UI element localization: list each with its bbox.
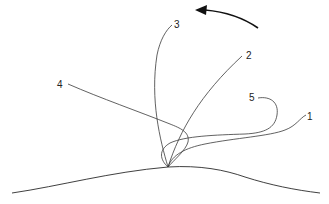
curve-4 (68, 84, 188, 167)
label-3: 3 (174, 19, 180, 30)
curve-5 (162, 98, 278, 167)
curve-3 (155, 25, 172, 167)
trajectory-diagram: 3 2 4 5 1 (0, 0, 329, 204)
curve-2 (168, 56, 242, 167)
label-2: 2 (246, 50, 252, 61)
ground-line (12, 167, 320, 193)
curved-arrow-left-icon (205, 10, 258, 28)
label-5: 5 (249, 92, 255, 103)
label-1: 1 (307, 111, 313, 122)
curve-1 (168, 115, 306, 167)
arrowhead-icon (195, 5, 207, 15)
label-4: 4 (57, 79, 63, 90)
